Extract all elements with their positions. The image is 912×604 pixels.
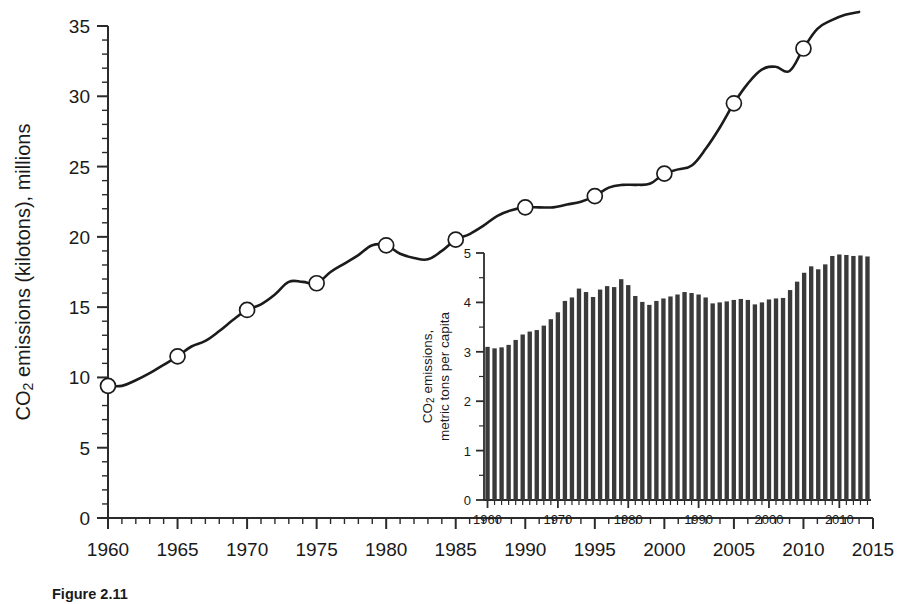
inset-bar[interactable] (619, 279, 623, 500)
inset-bar[interactable] (612, 287, 616, 500)
main-x-tick-label: 1975 (295, 539, 337, 560)
main-data-point-marker[interactable] (587, 189, 602, 204)
inset-bar[interactable] (506, 345, 510, 500)
inset-y-tick-label: 3 (464, 345, 471, 360)
main-y-tick-label: 25 (69, 157, 90, 178)
main-x-tick-label: 1960 (87, 539, 129, 560)
main-x-tick-label: 1990 (504, 539, 546, 560)
main-x-tick-label: 2000 (643, 539, 685, 560)
chart-canvas: 0510152025303519601965197019751980198519… (0, 0, 912, 604)
inset-bar[interactable] (837, 254, 841, 500)
main-data-point-marker[interactable] (448, 232, 463, 247)
inset-y-tick-label: 5 (464, 246, 471, 261)
inset-bar[interactable] (816, 269, 820, 500)
inset-bar[interactable] (485, 347, 489, 500)
main-y-tick-label: 5 (79, 438, 90, 459)
main-x-tick-label: 2005 (713, 539, 755, 560)
inset-bar[interactable] (858, 255, 862, 500)
main-data-point-marker[interactable] (726, 96, 741, 111)
main-x-tick-label: 1970 (226, 539, 268, 560)
inset-bar[interactable] (830, 256, 834, 500)
inset-bar[interactable] (513, 340, 517, 500)
inset-bar[interactable] (753, 304, 757, 500)
inset-bar[interactable] (689, 293, 693, 500)
inset-bar[interactable] (605, 286, 609, 500)
main-data-point-marker[interactable] (379, 238, 394, 253)
main-data-point-marker[interactable] (170, 349, 185, 364)
inset-bar[interactable] (696, 295, 700, 501)
inset-bar[interactable] (795, 282, 799, 500)
main-data-point-marker[interactable] (657, 166, 672, 181)
inset-bar[interactable] (626, 285, 630, 500)
main-x-tick-label: 1995 (574, 539, 616, 560)
inset-bar[interactable] (746, 300, 750, 500)
main-data-point-marker[interactable] (101, 378, 116, 393)
inset-bar[interactable] (823, 264, 827, 500)
inset-bar[interactable] (675, 295, 679, 501)
inset-bar[interactable] (499, 347, 503, 500)
inset-x-tick-label: 1990 (684, 512, 713, 527)
inset-y-tick-label: 2 (464, 394, 471, 409)
main-x-tick-label: 1980 (365, 539, 407, 560)
inset-bar[interactable] (851, 256, 855, 500)
main-x-tick-label: 2010 (782, 539, 824, 560)
main-x-tick-label: 1965 (156, 539, 198, 560)
inset-bar[interactable] (802, 273, 806, 500)
inset-y-tick-label: 0 (464, 493, 471, 508)
inset-bar[interactable] (809, 266, 813, 500)
inset-bar[interactable] (563, 301, 567, 500)
main-y-axis-title: CO2 emissions (kilotons), millions (12, 124, 36, 421)
inset-bar[interactable] (739, 299, 743, 500)
inset-x-tick-label: 1980 (614, 512, 643, 527)
inset-bar[interactable] (703, 297, 707, 500)
main-data-point-marker[interactable] (240, 302, 255, 317)
inset-bar[interactable] (767, 299, 771, 500)
inset-bar[interactable] (682, 292, 686, 500)
inset-bar[interactable] (647, 305, 651, 500)
main-y-tick-label: 20 (69, 227, 90, 248)
inset-bar[interactable] (661, 298, 665, 500)
inset-bar[interactable] (865, 256, 869, 500)
inset-bar[interactable] (591, 297, 595, 500)
figure-co2-emissions: 0510152025303519601965197019751980198519… (0, 0, 912, 604)
inset-y-tick-label: 1 (464, 444, 471, 459)
main-x-tick-label: 1985 (435, 539, 477, 560)
inset-bar[interactable] (711, 303, 715, 500)
main-y-tick-label: 15 (69, 297, 90, 318)
inset-bar[interactable] (528, 332, 532, 500)
inset-bar[interactable] (521, 335, 525, 500)
inset-bar[interactable] (788, 290, 792, 500)
inset-bar[interactable] (760, 302, 764, 500)
inset-bar[interactable] (577, 289, 581, 500)
inset-y-tick-label: 4 (464, 295, 471, 310)
main-data-point-marker[interactable] (518, 200, 533, 215)
main-data-point-marker[interactable] (309, 276, 324, 291)
inset-y-axis-title-line1: CO2 emissions, (420, 330, 436, 423)
inset-bar[interactable] (640, 302, 644, 500)
inset-bar[interactable] (570, 297, 574, 500)
main-x-tick-label: 2015 (852, 539, 894, 560)
inset-bar[interactable] (774, 298, 778, 500)
inset-x-tick-label: 1960 (473, 512, 502, 527)
inset-bar[interactable] (492, 348, 496, 500)
inset-bar[interactable] (781, 298, 785, 500)
inset-bar[interactable] (633, 296, 637, 500)
inset-bar[interactable] (584, 292, 588, 500)
inset-x-tick-label: 2010 (825, 512, 854, 527)
inset-bar[interactable] (654, 301, 658, 500)
inset-bar[interactable] (668, 296, 672, 500)
inset-bar[interactable] (549, 319, 553, 500)
main-y-tick-label: 30 (69, 86, 90, 107)
inset-y-axis-title-line2: metric tons per capita (437, 311, 452, 441)
figure-caption: Figure 2.11 (52, 586, 128, 602)
main-data-point-marker[interactable] (796, 41, 811, 56)
inset-bar[interactable] (542, 326, 546, 500)
inset-bar[interactable] (556, 312, 560, 500)
inset-bar[interactable] (725, 301, 729, 500)
inset-bar[interactable] (844, 255, 848, 500)
inset-bar[interactable] (535, 330, 539, 500)
main-y-tick-label: 35 (69, 16, 90, 37)
inset-bar[interactable] (718, 302, 722, 500)
inset-bar[interactable] (732, 300, 736, 500)
inset-bar[interactable] (598, 290, 602, 500)
